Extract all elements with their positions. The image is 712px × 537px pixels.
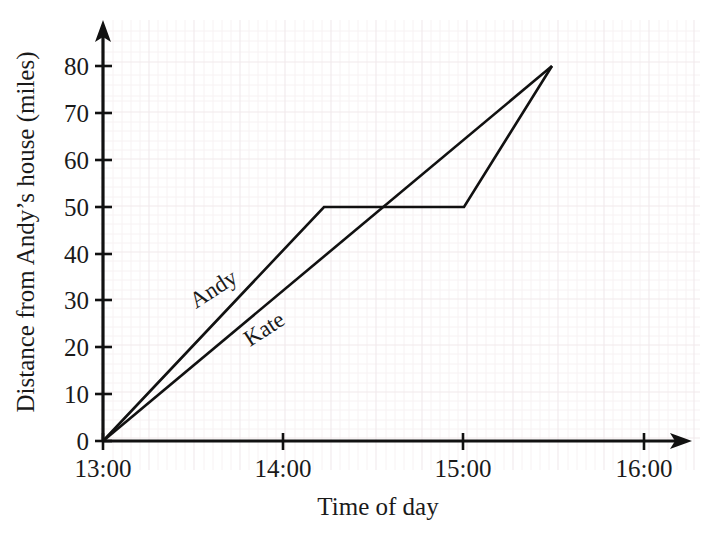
y-axis-title: Distance from Andy’s house (miles) [12,51,40,412]
y-axis [95,20,111,441]
grid-minor-lines [100,20,700,470]
x-tick-label-1400: 14:00 [255,455,312,482]
y-tick-label-70: 70 [64,100,89,127]
y-tick-label-50: 50 [64,194,89,221]
x-axis-title: Time of day [317,493,439,520]
y-tick-label-10: 10 [64,381,89,408]
x-axis-tick-labels: 13:00 14:00 15:00 16:00 [75,455,673,482]
x-tick-label-1600: 16:00 [616,455,673,482]
y-tick-label-80: 80 [64,53,89,80]
x-tick-label-1500: 15:00 [435,455,492,482]
x-tick-label-1300: 13:00 [75,455,132,482]
chart-page: 80 70 60 50 40 30 20 10 0 13:00 14:00 15… [0,0,712,537]
y-tick-label-40: 40 [64,241,89,268]
grid-major-lines [100,20,700,470]
y-tick-label-60: 60 [64,147,89,174]
y-axis-tick-labels: 80 70 60 50 40 30 20 10 0 [64,53,89,455]
y-tick-label-0: 0 [77,428,90,455]
y-tick-label-20: 20 [64,334,89,361]
distance-time-graph: 80 70 60 50 40 30 20 10 0 13:00 14:00 15… [0,0,712,537]
y-tick-label-30: 30 [64,287,89,314]
